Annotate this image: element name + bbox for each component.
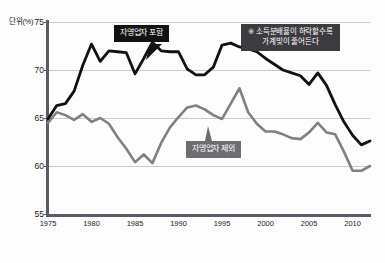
series-line-included	[48, 42, 370, 145]
callout-included: 자영업자 포함	[114, 25, 169, 42]
series-line-excluded	[48, 88, 370, 171]
note-line-1: ※ 소득분배율이 하락할수록	[248, 27, 333, 37]
note-line-2: 가계빚이 줄어든다	[248, 37, 333, 47]
callout-note: ※ 소득분배율이 하락할수록 가계빚이 줄어든다	[241, 24, 340, 51]
chart-container: 단위(%) 5560657075 19751980198519901995200…	[0, 0, 385, 263]
callout-tail-excluded	[205, 126, 212, 141]
callout-excluded: 자영업자 제외	[186, 141, 241, 158]
callout-tail-included	[146, 44, 162, 60]
